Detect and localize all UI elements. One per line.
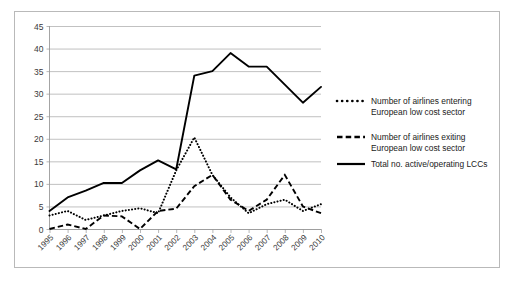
chart-legend: Number of airlines enteringEuropean low … [337,96,487,169]
gridlines [50,27,322,230]
x-tick-label: 2003 [181,233,201,253]
x-tick-label: 2006 [235,233,255,253]
y-tick-label: 30 [34,89,44,99]
y-tick-label: 35 [34,67,44,77]
x-tick-label: 2009 [290,233,310,253]
x-tick-label: 2007 [253,233,273,253]
x-tick-label: 2000 [127,233,147,253]
y-tick-label: 15 [34,157,44,167]
y-tick-label: 45 [34,22,44,32]
y-tick-label: 20 [34,134,44,144]
y-tick-label: 5 [39,202,44,212]
x-tick-label: 2002 [163,233,183,253]
series-line-entering [50,137,322,220]
x-axis-labels: 1995199619971998199920002001200220032004… [36,233,327,253]
legend-label-line1: Number of airlines entering [371,96,472,106]
chart-canvas: 051015202530354045 199519961997199819992… [0,0,522,287]
x-tick-label: 1996 [54,233,74,253]
y-tick-label: 40 [34,44,44,54]
x-tick-label: 2005 [217,233,237,253]
legend-label-line2: European low cost sector [371,143,465,153]
y-tick-label: 25 [34,112,44,122]
y-tick-label: 0 [39,225,44,235]
x-tick-label: 2008 [271,233,291,253]
legend-label-line1: Number of airlines exiting [371,132,466,142]
legend-label-line2: European low cost sector [371,107,465,117]
chart-figure: 051015202530354045 199519961997199819992… [0,0,522,287]
x-tick-label: 1998 [90,233,110,253]
x-tick-label: 1997 [72,233,92,253]
x-tick-label: 2010 [308,233,328,253]
x-tick-label: 1999 [109,233,129,253]
x-tick-label: 2001 [145,233,165,253]
series-line-exiting [50,175,322,229]
x-tick-label: 1995 [36,233,56,253]
y-axis-labels: 051015202530354045 [34,22,44,235]
legend-label-line1: Total no. active/operating LCCs [371,159,487,169]
series-line-total-lccs [50,53,322,211]
x-tick-label: 2004 [199,233,219,253]
y-tick-label: 10 [34,179,44,189]
